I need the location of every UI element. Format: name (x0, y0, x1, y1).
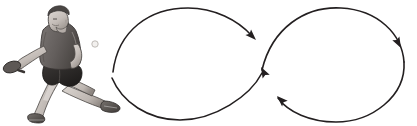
figure-eight-drill-illustration (0, 0, 417, 126)
table-tennis-ball (92, 41, 98, 47)
illustration-canvas: Table tennis footwork drill diagram Grey… (0, 0, 417, 126)
player-front-shoe (28, 114, 45, 123)
